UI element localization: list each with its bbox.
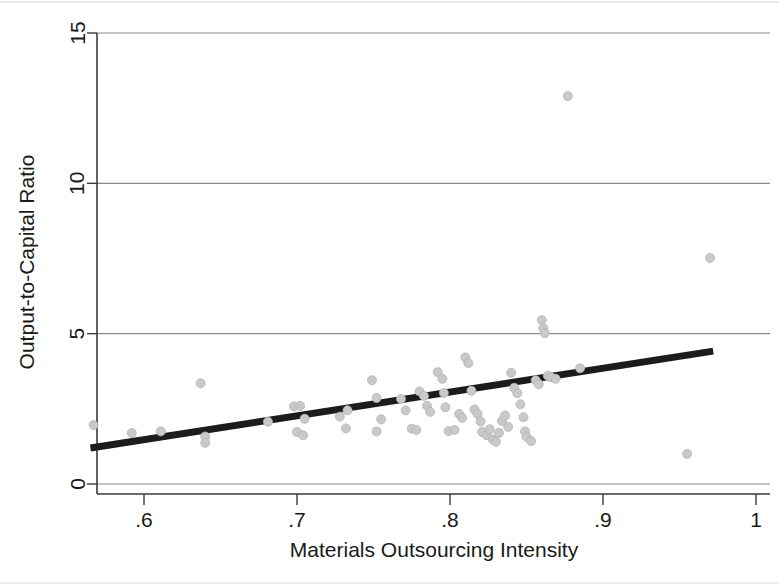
y-tick-label-0: 0 [66,478,89,490]
data-point [494,428,503,437]
data-point [438,374,447,383]
data-point [519,413,528,422]
data-point [89,421,98,430]
x-tick-label-.6: .6 [135,508,153,531]
data-point [516,400,525,409]
data-point [377,415,386,424]
y-tick-label-5: 5 [66,328,89,340]
data-point [201,438,210,447]
data-point [551,374,560,383]
figure-background [0,0,779,587]
plot-canvas: 051015 .6.7.8.91 Output-to-Capital Ratio… [0,0,779,587]
y-axis-label: Output-to-Capital Ratio [15,155,38,370]
data-point [296,401,305,410]
data-point [476,417,485,426]
data-point [527,437,536,446]
data-point [127,428,136,437]
x-tick-label-1: 1 [750,508,762,531]
x-axis-label: Materials Outsourcing Intensity [290,538,579,561]
data-point [491,437,500,446]
data-point [397,394,406,403]
data-point [412,425,421,434]
x-tick-label-.7: .7 [288,508,306,531]
data-point [196,379,205,388]
data-point [537,316,546,325]
data-point [458,413,467,422]
data-point [372,427,381,436]
data-point [683,449,692,458]
data-point [450,425,459,434]
data-point [372,394,381,403]
data-point [335,412,344,421]
data-point [534,380,543,389]
data-point [367,376,376,385]
data-point [485,425,494,434]
data-point [343,406,352,415]
data-point [341,424,350,433]
y-tick-label-10: 10 [66,172,89,195]
data-point [504,422,513,431]
data-point [419,391,428,400]
y-tick-label-15: 15 [66,21,89,44]
data-point [426,407,435,416]
data-point [300,414,309,423]
data-point [464,359,473,368]
data-point [513,389,522,398]
scatter-plot-figure: 051015 .6.7.8.91 Output-to-Capital Ratio… [0,0,779,587]
data-point [156,427,165,436]
data-point [467,386,476,395]
data-point [439,388,448,397]
x-tick-label-.9: .9 [594,508,612,531]
data-point [263,417,272,426]
data-point [706,253,715,262]
data-point [507,368,516,377]
data-point [401,406,410,415]
data-point [540,329,549,338]
x-tick-label-.8: .8 [441,508,459,531]
data-point [501,411,510,420]
data-point [299,431,308,440]
data-point [576,364,585,373]
data-point [563,92,572,101]
data-point [441,403,450,412]
